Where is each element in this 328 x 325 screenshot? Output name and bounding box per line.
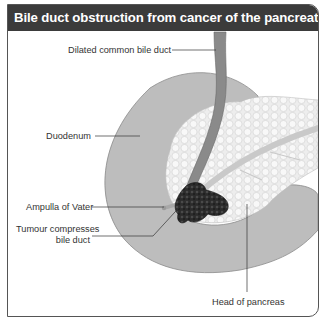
label-tumour-line1: Tumour compresses — [16, 224, 90, 235]
label-ampulla-of-vater: Ampulla of Vater — [26, 202, 93, 213]
label-head-of-pancreas: Head of pancreas — [212, 297, 285, 308]
label-tumour: Tumour compresses bile duct — [16, 224, 90, 246]
label-duodenum: Duodenum — [46, 131, 91, 142]
label-tumour-line2: bile duct — [16, 235, 90, 246]
label-dilated-common-bile-duct: Dilated common bile duct — [68, 45, 171, 56]
